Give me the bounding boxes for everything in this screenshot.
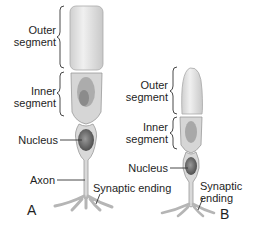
rod-cell-a <box>55 6 112 210</box>
panel-a-letter: A <box>27 203 36 217</box>
rod-axon-label: Axon <box>4 174 55 186</box>
label-line: segment <box>116 133 168 145</box>
rod-synaptic-ending-label: Synaptic ending <box>93 182 171 194</box>
panel-b-letter: B <box>220 207 229 221</box>
label-line: segment <box>4 36 56 48</box>
rod-outer-segment <box>70 6 103 70</box>
label-line: segment <box>4 97 56 109</box>
label-line: ending <box>200 192 242 204</box>
rod-outer-segment-label: Outer segment <box>4 24 56 48</box>
cone-nucleus <box>185 157 197 175</box>
cone-outer-segment-label: Outer segment <box>116 79 168 103</box>
rod-inner-segment-label: Inner segment <box>4 85 56 109</box>
cone-synaptic-ending-label: Synaptic ending <box>200 180 242 204</box>
label-line: Inner <box>116 121 168 133</box>
label-line: Outer <box>4 24 56 36</box>
label-line: Inner <box>4 85 56 97</box>
rod-synaptic-ending <box>55 196 112 210</box>
rod-nucleus-label: Nucleus <box>4 134 58 146</box>
label-line: Outer <box>116 79 168 91</box>
label-line: segment <box>116 91 168 103</box>
cone-inner-segment-label: Inner segment <box>116 121 168 145</box>
cone-nucleus-label: Nucleus <box>116 162 168 174</box>
label-line: Synaptic <box>200 180 242 192</box>
cone-outer-segment <box>182 68 203 114</box>
cone-synaptic-ending <box>162 204 214 216</box>
